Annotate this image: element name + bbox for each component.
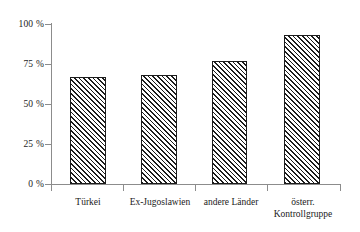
y-tick-label-0: 0 % [0, 179, 44, 189]
x-label-tuerkei: Türkei [48, 196, 128, 208]
x-axis-line [51, 184, 341, 185]
y-tick-50 [45, 104, 52, 105]
x-label-oesterr-kontrollgruppe: österr. Kontrollgruppe [262, 196, 344, 220]
x-label-oesterr-kontrollgruppe-line2: Kontrollgruppe [262, 208, 344, 220]
y-tick-100 [45, 24, 52, 25]
y-tick-25 [45, 144, 52, 145]
x-label-andere-laender-line1: andere Länder [204, 197, 259, 207]
bar-chart: 100 % 75 % 50 % 25 % 0 % Türkei Ex-Jugos… [0, 0, 360, 232]
y-tick-label-100: 100 % [0, 19, 44, 29]
x-label-ex-jugoslawien: Ex-Jugoslawien [119, 196, 201, 208]
y-tick-75 [45, 64, 52, 65]
bar-andere-laender [212, 61, 247, 184]
y-tick-label-50: 50 % [0, 99, 44, 109]
x-tick-2 [195, 185, 196, 191]
y-tick-label-25: 25 % [0, 139, 44, 149]
x-tick-4 [340, 185, 341, 191]
x-tick-0 [51, 185, 52, 191]
bar-tuerkei [70, 77, 106, 184]
bar-oesterr-kontrollgruppe [284, 35, 320, 184]
bar-ex-jugoslawien [141, 75, 177, 184]
x-label-tuerkei-line1: Türkei [75, 197, 100, 207]
x-label-oesterr-kontrollgruppe-line1: österr. [291, 197, 314, 207]
x-label-ex-jugoslawien-line1: Ex-Jugoslawien [130, 197, 191, 207]
x-label-andere-laender: andere Länder [191, 196, 271, 208]
plot-area: 100 % 75 % 50 % 25 % 0 % Türkei Ex-Jugos… [0, 0, 360, 232]
y-tick-label-75: 75 % [0, 59, 44, 69]
x-tick-3 [267, 185, 268, 191]
x-tick-1 [123, 185, 124, 191]
